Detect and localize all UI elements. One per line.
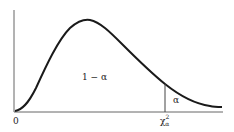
origin-label: 0 (13, 117, 19, 126)
chi-square-plot (0, 0, 234, 132)
chi-subscript: α (165, 120, 169, 127)
critical-value-label: χ2α (160, 117, 173, 126)
chi-superscript: 2 (165, 113, 169, 120)
central-area-label: 1 − α (82, 73, 107, 82)
tail-area-label: α (173, 96, 179, 105)
density-curve (15, 20, 222, 111)
